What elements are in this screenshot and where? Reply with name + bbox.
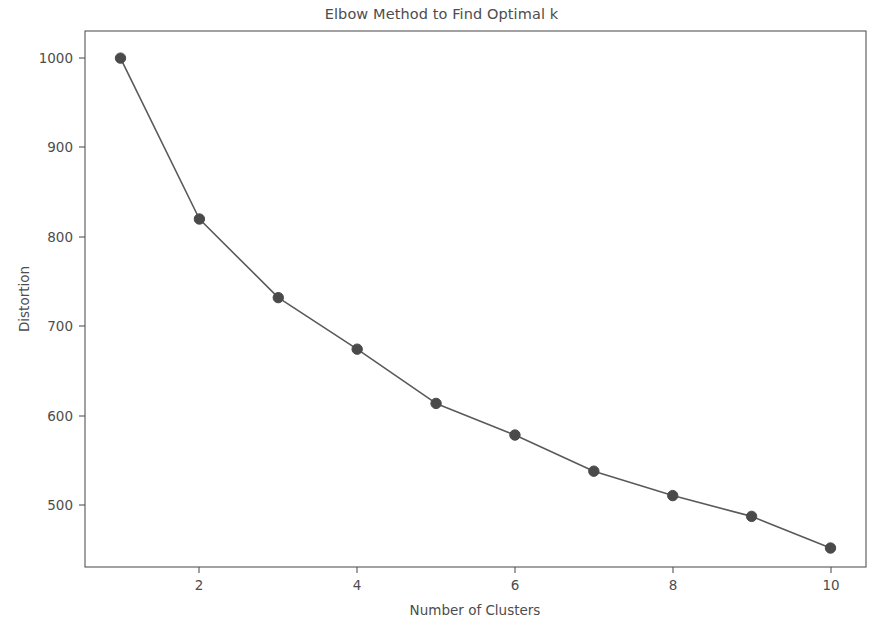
chart-figure: Elbow Method to Find Optimal k 1000 900 … xyxy=(0,0,883,634)
data-point-k2 xyxy=(194,214,204,224)
data-point-k3 xyxy=(273,292,283,302)
x-tick-label-10: 10 xyxy=(822,577,839,593)
x-tick-label-8: 8 xyxy=(669,577,678,593)
data-point-k7 xyxy=(589,466,599,476)
data-point-k10 xyxy=(825,543,835,553)
data-point-k8 xyxy=(668,490,678,500)
plot-area-background xyxy=(85,31,866,567)
y-tick-label-800: 800 xyxy=(47,229,73,245)
data-point-k1 xyxy=(115,53,125,63)
data-point-k6 xyxy=(510,430,520,440)
x-tick-label-2: 2 xyxy=(195,577,204,593)
y-tick-label-1000: 1000 xyxy=(39,50,73,66)
x-tick-label-6: 6 xyxy=(511,577,520,593)
line-chart-plot: 1000 900 800 700 600 500 2 4 6 8 10 Numb… xyxy=(0,0,883,634)
x-axis-ticks xyxy=(199,567,831,573)
y-axis-ticks xyxy=(79,58,85,505)
data-point-k9 xyxy=(746,511,756,521)
x-tick-label-4: 4 xyxy=(353,577,362,593)
y-axis-tick-labels: 1000 900 800 700 600 500 xyxy=(39,50,73,513)
y-axis-title: Distortion xyxy=(16,266,32,332)
x-axis-tick-labels: 2 4 6 8 10 xyxy=(195,577,840,593)
data-point-k4 xyxy=(352,344,362,354)
data-point-k5 xyxy=(431,398,441,408)
y-tick-label-500: 500 xyxy=(47,497,73,513)
y-tick-label-600: 600 xyxy=(47,408,73,424)
y-tick-label-700: 700 xyxy=(47,318,73,334)
y-tick-label-900: 900 xyxy=(47,139,73,155)
x-axis-title: Number of Clusters xyxy=(410,602,541,618)
